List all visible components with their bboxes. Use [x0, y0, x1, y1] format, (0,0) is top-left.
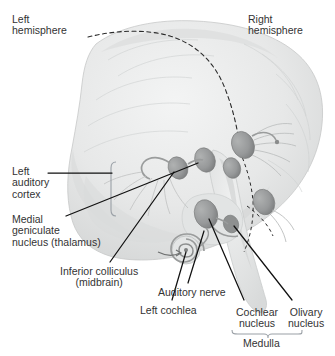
- right-nerve-fibers: [270, 210, 294, 242]
- right-terminal-dot: [275, 140, 279, 144]
- auditory-pathway-diagram: Left hemisphere Right hemisphere Left au…: [0, 0, 335, 356]
- label-left-auditory-cortex: Left auditory cortex: [12, 166, 49, 200]
- label-right-hemisphere: Right hemisphere: [248, 14, 303, 37]
- label-auditory-nerve: Auditory nerve: [158, 287, 226, 298]
- label-medial-geniculate-nucleus: Medial geniculate nucleus (thalamus): [12, 214, 101, 248]
- label-cochlear-nucleus: Cochlear nucleus: [236, 307, 278, 330]
- label-olivary-nucleus: Olivary nucleus: [288, 307, 324, 330]
- label-medulla: Medulla: [243, 338, 280, 349]
- label-inferior-colliculus: Inferior colliculus (midbrain): [60, 266, 138, 289]
- label-left-hemisphere: Left hemisphere: [12, 14, 67, 37]
- label-left-cochlea: Left cochlea: [140, 305, 197, 316]
